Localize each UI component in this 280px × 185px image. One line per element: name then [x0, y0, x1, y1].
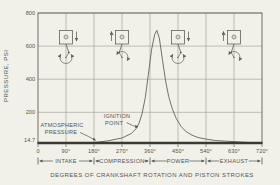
wrist-pin-center: [122, 37, 123, 38]
ignition-point-arrow-icon: [127, 123, 139, 127]
piston-diagram-exhaust: [224, 31, 241, 61]
y-tick-label: 400: [26, 76, 35, 82]
stroke-label-exhaust: EXHAUST: [220, 158, 249, 164]
x-tick-label: 360°: [144, 148, 156, 154]
crank-rotation-arc-icon: [229, 51, 240, 60]
x-tick-label: 450°: [172, 148, 184, 154]
connecting-rod: [178, 44, 181, 53]
crank-center: [65, 57, 66, 58]
crank-rotation-arc-icon: [117, 51, 128, 60]
chart-canvas: 090°180°270°360°450°540°630°720°14.72004…: [0, 0, 280, 185]
wrist-pin-center: [178, 37, 179, 38]
crank-center: [233, 57, 234, 58]
y-axis-title: PRESSURE, PSI: [3, 49, 9, 102]
atmospheric-pressure-label-line1: ATMOSPHERIC: [41, 122, 84, 128]
crank-center: [121, 57, 122, 58]
piston-diagram-compression: [112, 31, 129, 61]
piston-diagram-power: [172, 31, 189, 64]
stroke-label-intake: INTAKE: [55, 158, 77, 164]
crank-arm: [178, 53, 181, 58]
x-tick-label: 180°: [88, 148, 100, 154]
stroke-band: INTAKECOMPRESSIONPOWEREXHAUST: [38, 158, 262, 165]
x-tick-label: 0: [36, 148, 39, 154]
wrist-pin-center: [234, 37, 235, 38]
y-tick-label: 600: [26, 43, 35, 49]
atmospheric-pressure-arrow-icon: [80, 133, 96, 141]
stroke-label-compression: COMPRESSION: [99, 158, 144, 164]
crank-arm: [231, 53, 234, 58]
engine-pressure-stroke-chart: 090°180°270°360°450°540°630°720°14.72004…: [0, 0, 280, 185]
x-tick-label: 630°: [228, 148, 240, 154]
x-axis-caption: DEGREES OF CRANKSHAFT ROTATION AND PISTO…: [50, 172, 254, 178]
crank-arm: [66, 53, 69, 58]
ignition-point-label-line1: IGNITION: [104, 113, 130, 119]
crank-center: [177, 57, 178, 58]
x-tick-label: 720°: [256, 148, 268, 154]
y-tick-label: 800: [26, 10, 35, 16]
y-tick-label: 14.7: [24, 137, 35, 143]
ignition-point-label-line2: POINT: [105, 120, 123, 126]
x-tick-label: 540°: [200, 148, 212, 154]
x-tick-label: 270°: [116, 148, 128, 154]
connecting-rod: [66, 44, 69, 53]
x-tick-label: 90°: [62, 148, 71, 154]
wrist-pin-center: [66, 37, 67, 38]
atmospheric-pressure-label-line2: PRESSURE: [45, 129, 77, 135]
stroke-label-power: POWER: [167, 158, 190, 164]
piston-diagram-intake: [60, 31, 77, 64]
crank-arm: [119, 53, 122, 58]
y-tick-label: 200: [26, 109, 35, 115]
